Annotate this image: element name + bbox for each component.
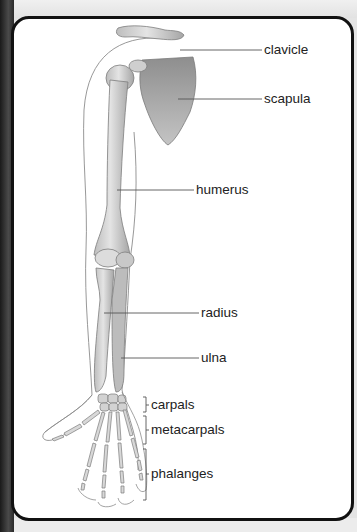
- clavicle-bone: [116, 26, 184, 40]
- humerus-bone: [94, 80, 130, 258]
- hand-outline: [45, 392, 147, 507]
- label-metacarpals: metacarpals: [151, 422, 225, 437]
- scapula-bone: [140, 57, 196, 145]
- radius-bone: [94, 268, 114, 392]
- label-ulna: ulna: [201, 350, 227, 365]
- carpal-bones: [98, 394, 127, 411]
- label-clavicle: clavicle: [264, 42, 308, 57]
- hand-bones: [52, 410, 143, 498]
- ulna-bone: [112, 268, 128, 392]
- arm-skeleton-illustration: [0, 0, 357, 532]
- label-radius: radius: [201, 305, 238, 320]
- label-carpals: carpals: [151, 397, 195, 412]
- label-humerus: humerus: [196, 182, 249, 197]
- label-scapula: scapula: [264, 91, 311, 106]
- label-phalanges: phalanges: [151, 466, 213, 481]
